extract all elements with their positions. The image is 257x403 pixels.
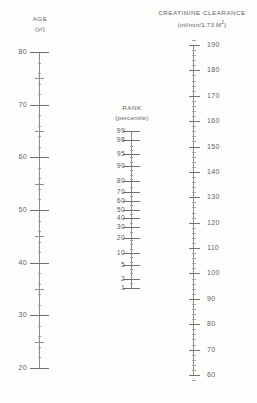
clearance-tick-minor-182 [192,65,196,66]
clearance-tick-minor-132 [192,192,196,193]
age-tick-minor-44 [38,242,41,243]
rank-axis-header: RANK (percentile) [99,103,165,122]
clearance-tick-label-120: 120 [207,219,233,226]
clearance-axis-line [193,45,194,375]
clearance-tick-major-110 [189,248,200,249]
clearance-tick-minor-112 [192,243,196,244]
clearance-tick-minor-78 [192,329,196,330]
rank-tick-minor-6 [130,262,133,263]
clearance-tick-minor-126 [192,207,196,208]
clearance-tick-label-170: 170 [207,92,233,99]
age-tick-mid-75 [35,78,44,79]
age-tick-minor-38 [38,273,41,274]
age-tick-minor-64 [38,136,41,137]
clearance-tick-minor-88 [192,304,196,305]
age-tick-mid-35 [35,289,44,290]
age-tick-mid-25 [35,342,44,343]
clearance-tick-minor-148 [192,152,196,153]
clearance-tick-minor-172 [192,91,196,92]
clearance-subtitle-post: ) [224,21,226,28]
rank-tick-minor-4 [130,269,133,270]
rank-tick-minor-94 [130,157,133,158]
rank-tick-minor-75 [130,187,133,188]
rank-axis-subtitle: (percentile) [99,113,165,123]
rank-tick-major-20 [123,238,140,239]
clearance-tick-minor-124 [192,213,196,214]
clearance-tick-minor-128 [192,202,196,203]
clearance-tick-major-150 [189,147,200,148]
clearance-tick-minor-154 [192,136,196,137]
rank-tick-minor-18 [130,240,133,241]
clearance-tick-minor-192 [192,40,196,41]
clearance-axis-header: CREATININE CLEARANCE (ml/min/1.73 M2) [150,8,254,29]
clearance-tick-minor-156 [192,131,196,132]
age-tick-mid-65 [35,131,44,132]
clearance-tick-minor-116 [192,233,196,234]
rank-tick-label-80: 80 [105,177,125,184]
clearance-tick-minor-186 [192,55,196,56]
age-tick-minor-74 [38,84,41,85]
rank-tick-minor-65 [130,196,133,197]
age-tick-label-30: 30 [5,311,27,318]
age-tick-minor-42 [38,252,41,253]
clearance-tick-minor-82 [192,319,196,320]
age-tick-label-80: 80 [5,48,27,55]
clearance-tick-label-100: 100 [207,269,233,276]
clearance-tick-minor-66 [192,360,196,361]
rank-tick-label-50: 50 [105,206,125,213]
age-tick-minor-52 [38,199,41,200]
clearance-tick-minor-174 [192,86,196,87]
clearance-tick-minor-106 [192,258,196,259]
rank-tick-label-99: 99 [105,127,125,134]
rank-tick-label-40: 40 [105,214,125,221]
rank-tick-major-70 [123,192,140,193]
rank-tick-major-1 [123,288,140,289]
clearance-tick-major-80 [189,324,200,325]
rank-tick-major-30 [123,227,140,228]
rank-tick-minor-35 [130,223,133,224]
clearance-tick-minor-94 [192,289,196,290]
rank-tick-major-98 [123,140,140,141]
clearance-tick-minor-152 [192,141,196,142]
rank-tick-major-99 [123,131,140,132]
age-tick-minor-62 [38,147,41,148]
age-tick-minor-48 [38,221,41,222]
rank-tick-minor-55 [130,205,133,206]
clearance-tick-minor-142 [192,167,196,168]
age-tick-minor-36 [38,284,41,285]
clearance-tick-minor-68 [192,355,196,356]
rank-tick-major-50 [123,210,140,211]
rank-tick-major-10 [123,253,140,254]
clearance-tick-minor-118 [192,228,196,229]
rank-tick-minor-97 [130,146,133,147]
age-tick-minor-28 [38,326,41,327]
clearance-tick-minor-146 [192,157,196,158]
clearance-tick-label-180: 180 [207,66,233,73]
clearance-tick-minor-76 [192,334,196,335]
clearance-tick-label-70: 70 [207,346,233,353]
rank-tick-minor-25 [130,232,133,233]
age-tick-label-20: 20 [5,364,27,371]
rank-tick-label-20: 20 [105,234,125,241]
clearance-tick-label-140: 140 [207,168,233,175]
rank-tick-minor-15 [130,244,133,245]
clearance-tick-minor-166 [192,106,196,107]
clearance-tick-minor-164 [192,111,196,112]
clearance-tick-minor-62 [192,370,196,371]
clearance-tick-major-60 [189,375,200,376]
rank-tick-major-90 [123,166,140,167]
age-tick-minor-32 [38,305,41,306]
rank-tick-minor-82 [130,179,133,180]
age-tick-major-60 [30,157,49,158]
age-tick-major-40 [30,263,49,264]
clearance-tick-minor-178 [192,75,196,76]
rank-axis-title: RANK [99,103,165,113]
clearance-tick-minor-144 [192,162,196,163]
age-axis-header: AGE (yr) [18,14,62,33]
age-tick-minor-56 [38,178,41,179]
rank-tick-major-2 [123,279,140,280]
clearance-tick-minor-58 [192,380,196,381]
clearance-tick-minor-122 [192,218,196,219]
age-tick-minor-26 [38,336,41,337]
rank-tick-minor-8 [130,257,133,258]
